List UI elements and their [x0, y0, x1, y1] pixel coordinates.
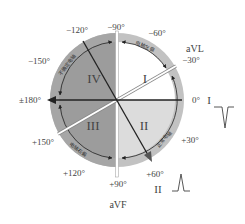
- lead-avf-label: aVF: [109, 199, 127, 210]
- lead-avl-label: aVL: [186, 43, 204, 54]
- label-minus-150: −150°: [28, 56, 51, 66]
- quadrant-III-label: III: [87, 118, 100, 133]
- lead-II-waveform-icon: [172, 174, 190, 191]
- quadrant-I-label: I: [143, 71, 147, 86]
- hexaxial-diagram: −90° −60° −30° 0° +30° +60° +90° +120° +…: [0, 0, 245, 224]
- lead-I-label: I: [207, 94, 211, 106]
- label-minus-60: −60°: [148, 28, 166, 38]
- label-minus-120: −120°: [66, 25, 89, 35]
- label-plus-90: +90°: [109, 179, 127, 189]
- label-plus-30: +30°: [181, 135, 199, 145]
- label-plus-60: +60°: [146, 169, 164, 179]
- avf-axis-line: [116, 31, 119, 177]
- label-plus-150: +150°: [32, 137, 55, 147]
- lead-I-waveform-icon: [214, 107, 234, 128]
- label-minus-90: −90°: [107, 22, 125, 32]
- lead-II-label: II: [154, 183, 162, 195]
- quadrant-II-label: II: [140, 118, 149, 133]
- quadrant-IV-label: IV: [87, 71, 101, 86]
- label-zero: 0°: [192, 95, 201, 105]
- label-180: ±180°: [19, 95, 41, 105]
- label-minus-30: −30°: [182, 55, 200, 65]
- label-plus-120: +120°: [63, 168, 86, 178]
